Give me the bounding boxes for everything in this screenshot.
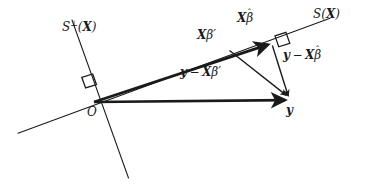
label-origin: O xyxy=(87,106,97,118)
label-X-beta-prime: Xβ′ xyxy=(197,29,216,41)
residual-prime-y-symbol: y xyxy=(180,65,187,79)
residual-hat-X-symbol: X xyxy=(305,48,314,62)
label-X-beta-hat: Xˆβ xyxy=(237,12,253,24)
residual-hat-y-symbol: y xyxy=(283,48,290,62)
vector-O-to-y xyxy=(94,100,285,102)
hat-accent-icon: ˆ xyxy=(247,8,252,18)
label-orthogonal-complement: S⊥(X) xyxy=(62,20,96,33)
candidate-X-symbol: X xyxy=(197,28,206,42)
diagram-canvas xyxy=(0,0,374,185)
fitted-X-symbol: X xyxy=(237,11,246,25)
label-residual-y-minus-X-beta-hat: y−Xˆβ xyxy=(283,49,321,61)
fitted-beta-symbol: ˆβ xyxy=(246,12,253,24)
orthogonal-complement-paren-close: ) xyxy=(92,20,97,34)
span-letter: S xyxy=(313,7,321,21)
span-paren-close: ) xyxy=(335,7,340,21)
candidate-prime-accent-icon: ′ xyxy=(213,28,216,42)
residual-prime-X-symbol: X xyxy=(202,65,211,79)
residual-prime-minus-sign: − xyxy=(189,65,199,79)
orthogonal-complement-argument: X xyxy=(82,20,91,34)
right-angle-at-projection xyxy=(275,32,290,47)
orthogonal-complement-letter: S xyxy=(62,20,70,34)
residual-hat-minus-sign: − xyxy=(292,48,302,62)
residual-prime-accent-icon: ′ xyxy=(218,65,221,79)
label-residual-y-minus-X-beta-prime: y−Xβ′ xyxy=(180,66,221,78)
span-argument: X xyxy=(326,7,335,21)
perp-icon: ⊥ xyxy=(70,19,78,28)
vector-residual-X-beta-prime-to-y xyxy=(230,51,287,96)
hat-accent-icon: ˆ xyxy=(315,45,320,55)
projection-diagram-figure: S(X) S⊥(X) Xˆβ Xβ′ y−Xˆβ y−Xβ′ O y xyxy=(0,0,374,185)
residual-hat-beta-symbol: ˆβ xyxy=(314,49,321,61)
label-span-SX: S(X) xyxy=(313,8,340,20)
label-observation-y: y xyxy=(286,104,293,116)
